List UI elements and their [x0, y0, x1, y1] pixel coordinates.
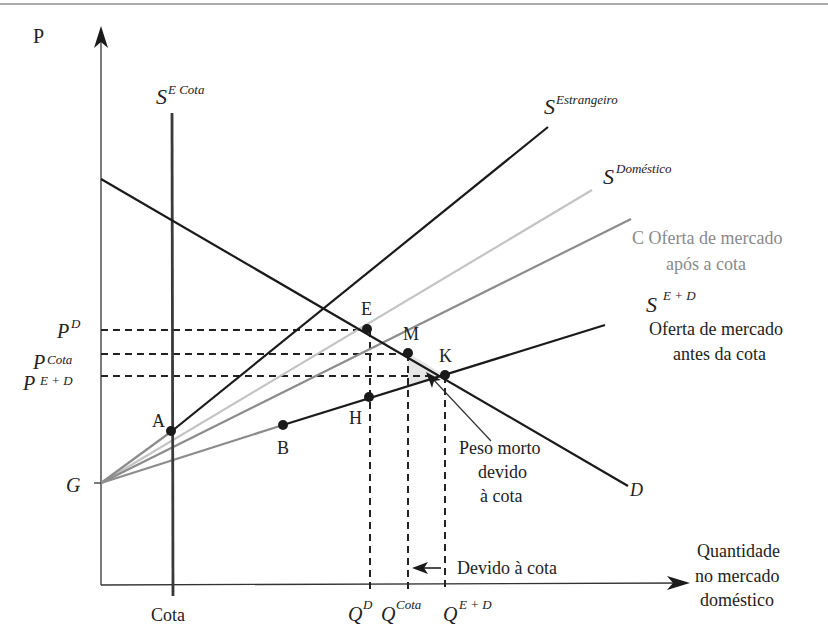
- origin-label-g: G: [66, 474, 81, 496]
- price-tick-pd: P D: [56, 316, 81, 342]
- svg-text:P: P: [22, 372, 35, 394]
- y-axis-label: P: [33, 25, 44, 47]
- point-b-label: B: [277, 438, 289, 458]
- x-axis-label-line2: no mercado: [695, 566, 779, 586]
- svg-text:S: S: [603, 164, 614, 189]
- svg-text:E Cota: E Cota: [167, 82, 205, 97]
- deadweight-pointer: [432, 378, 491, 441]
- svg-text:D: D: [70, 316, 81, 331]
- demand-label: D: [629, 480, 643, 500]
- c-line-label-2: após a cota: [666, 254, 746, 274]
- g-to-b-segment: [101, 425, 283, 483]
- point-e-label: E: [361, 299, 372, 319]
- point-a: [166, 426, 176, 436]
- x-axis: [101, 583, 684, 585]
- svg-text:S: S: [544, 94, 555, 119]
- quantity-tick-qd: Q D: [348, 597, 373, 625]
- svg-text:P: P: [56, 320, 69, 342]
- s-e-d-label: S E + D: [646, 288, 696, 317]
- x-axis-label-line1: Quantidade: [697, 541, 780, 561]
- svg-text:S: S: [646, 292, 657, 317]
- point-h-label: H: [349, 408, 362, 428]
- price-tick-pcota: P Cota: [32, 351, 73, 373]
- svg-text:Doméstico: Doméstico: [615, 161, 672, 176]
- point-m-label: M: [403, 324, 419, 344]
- svg-text:Q: Q: [381, 603, 396, 625]
- shift-annotation: Devido à cota: [457, 558, 557, 578]
- svg-text:Cota: Cota: [396, 597, 422, 612]
- svg-text:S: S: [156, 84, 167, 109]
- quantity-tick-qed: Q E + D: [443, 597, 492, 625]
- g-to-a-segment: [101, 431, 172, 483]
- point-k-label: K: [439, 346, 452, 366]
- quota-diagram: P G Quantidade no mercado doméstico S E …: [0, 0, 828, 641]
- s-estrangeiro-line: [172, 127, 548, 431]
- deadweight-label-3: à cota: [480, 486, 522, 506]
- quantity-tick-qcota: Q Cota: [381, 597, 422, 625]
- deadweight-label-1: Peso morto: [459, 438, 541, 458]
- svg-text:E + D: E + D: [662, 288, 696, 303]
- s-e-d-label-2: antes da cota: [673, 344, 766, 364]
- point-m: [403, 348, 413, 358]
- s-estrangeiro-label: S Estrangeiro: [544, 92, 618, 119]
- s-e-cota-label: S E Cota: [156, 82, 205, 109]
- svg-text:Cota: Cota: [47, 352, 73, 367]
- point-b: [278, 420, 288, 430]
- svg-text:E + D: E + D: [458, 597, 492, 612]
- deadweight-label-2: devido: [478, 462, 527, 482]
- svg-text:Q: Q: [348, 603, 363, 625]
- point-e: [362, 324, 372, 334]
- price-tick-ped: P E + D: [22, 372, 73, 394]
- x-axis-label-line3: doméstico: [700, 590, 774, 610]
- svg-text:Q: Q: [443, 603, 458, 625]
- point-k: [440, 370, 450, 380]
- point-h: [364, 392, 374, 402]
- quantity-tick-cota: Cota: [151, 605, 185, 625]
- c-supply-after-quota-line: [101, 219, 631, 483]
- svg-text:D: D: [362, 597, 373, 612]
- point-a-label: A: [152, 411, 165, 431]
- s-domestico-label: S Doméstico: [603, 161, 672, 189]
- s-e-cota-line: [172, 113, 173, 596]
- svg-text:Estrangeiro: Estrangeiro: [555, 92, 618, 107]
- svg-text:E + D: E + D: [39, 373, 73, 388]
- c-line-label-1: C Oferta de mercado: [632, 228, 782, 248]
- s-e-d-label-1: Oferta de mercado: [649, 319, 783, 339]
- svg-text:P: P: [32, 351, 45, 373]
